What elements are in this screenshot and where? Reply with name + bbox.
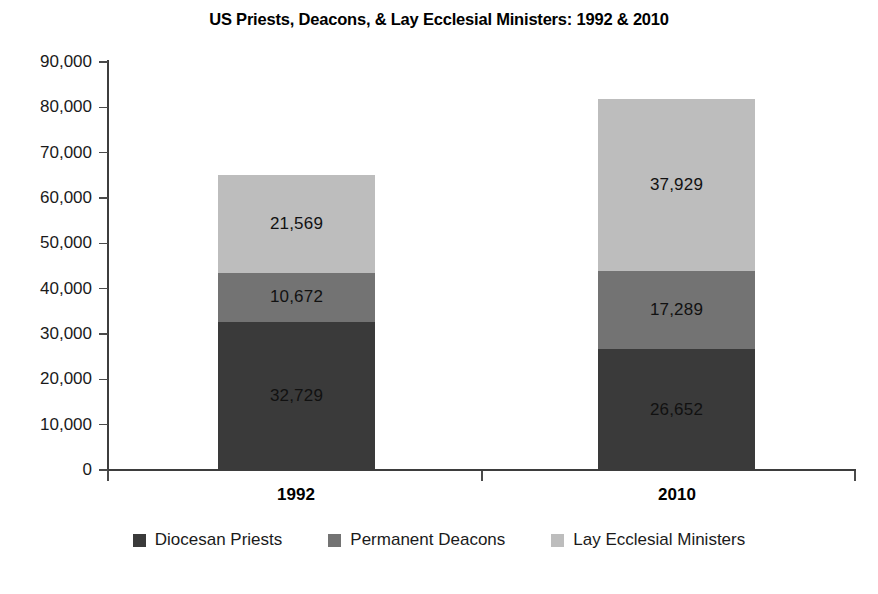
y-axis-label: 70,000 xyxy=(0,143,92,163)
bar-value-label: 37,929 xyxy=(650,175,703,195)
chart-legend: Diocesan PriestsPermanent DeaconsLay Ecc… xyxy=(0,530,878,550)
y-axis-label: 10,000 xyxy=(0,415,92,435)
x-tick-middle xyxy=(481,471,483,481)
x-axis-label-1992: 1992 xyxy=(196,485,396,505)
bar-group-2010[interactable]: 37,929 17,289 26,652 xyxy=(598,99,755,470)
y-tick-40000 xyxy=(99,288,108,290)
y-tick-20000 xyxy=(99,379,108,381)
bar-segment-lay-ecclesial-ministers-2010[interactable]: 37,929 xyxy=(598,99,755,271)
y-axis-label: 60,000 xyxy=(0,188,92,208)
y-axis-label: 80,000 xyxy=(0,97,92,117)
legend-swatch-icon xyxy=(133,534,146,547)
y-axis-label: 0 xyxy=(0,460,92,480)
legend-label: Lay Ecclesial Ministers xyxy=(573,530,745,550)
y-axis-label: 90,000 xyxy=(0,52,92,72)
chart-title: US Priests, Deacons, & Lay Ecclesial Min… xyxy=(0,10,878,29)
y-tick-60000 xyxy=(99,197,108,199)
bar-group-1992[interactable]: 21,569 10,672 32,729 xyxy=(218,175,375,470)
y-tick-80000 xyxy=(99,107,108,109)
legend-item[interactable]: Diocesan Priests xyxy=(133,530,283,550)
legend-item[interactable]: Permanent Deacons xyxy=(328,530,505,550)
bar-value-label: 26,652 xyxy=(650,400,703,420)
y-axis-label: 50,000 xyxy=(0,233,92,253)
legend-item[interactable]: Lay Ecclesial Ministers xyxy=(551,530,745,550)
y-tick-30000 xyxy=(99,333,108,335)
bar-segment-permanent-deacons-1992[interactable]: 10,672 xyxy=(218,273,375,321)
legend-swatch-icon xyxy=(328,534,341,547)
bar-segment-diocesan-priests-2010[interactable]: 26,652 xyxy=(598,349,755,470)
bar-segment-permanent-deacons-2010[interactable]: 17,289 xyxy=(598,271,755,349)
y-tick-50000 xyxy=(99,243,108,245)
x-tick-end xyxy=(854,471,856,481)
stacked-bar-chart: US Priests, Deacons, & Lay Ecclesial Min… xyxy=(0,0,878,594)
x-axis-label-2010: 2010 xyxy=(577,485,777,505)
bar-value-label: 21,569 xyxy=(270,214,323,234)
y-axis-label: 40,000 xyxy=(0,279,92,299)
legend-label: Diocesan Priests xyxy=(155,530,283,550)
x-tick-start xyxy=(107,471,109,481)
y-tick-10000 xyxy=(99,424,108,426)
legend-swatch-icon xyxy=(551,534,564,547)
bar-segment-diocesan-priests-1992[interactable]: 32,729 xyxy=(218,322,375,470)
y-tick-70000 xyxy=(99,152,108,154)
bar-value-label: 17,289 xyxy=(650,300,703,320)
plot-area: 21,569 10,672 32,729 37,929 17,289 26,65… xyxy=(108,62,855,470)
bar-segment-lay-ecclesial-ministers-1992[interactable]: 21,569 xyxy=(218,175,375,273)
y-axis-label: 20,000 xyxy=(0,369,92,389)
bar-value-label: 32,729 xyxy=(270,386,323,406)
bar-value-label: 10,672 xyxy=(270,287,323,307)
legend-label: Permanent Deacons xyxy=(350,530,505,550)
y-tick-90000 xyxy=(99,61,108,63)
y-axis-label: 30,000 xyxy=(0,324,92,344)
